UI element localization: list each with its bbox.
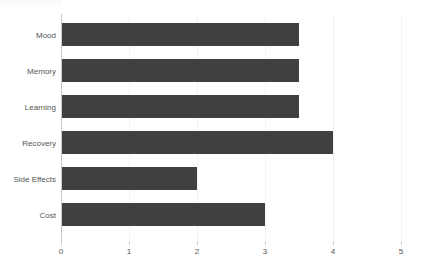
x-tick-mark-2 [197,241,198,245]
bar-chart: MoodMemoryLearningRecoverySide EffectsCo… [0,0,429,275]
x-tick-label-1: 1 [114,247,144,256]
bar-row[interactable] [61,95,401,118]
x-tick-label-0: 0 [46,247,76,256]
bar-row[interactable] [61,59,401,82]
bar-row[interactable] [61,203,401,226]
category-label-recovery: Recovery [0,138,56,147]
x-tick-label-4: 4 [318,247,348,256]
x-tick-label-3: 3 [250,247,280,256]
bar-learning[interactable] [61,95,299,118]
bars-group [61,14,401,240]
x-tick-mark-4 [333,241,334,245]
category-label-cost: Cost [0,210,56,219]
x-tick-label-5: 5 [386,247,416,256]
bar-cost[interactable] [61,203,265,226]
x-tick-mark-3 [265,241,266,245]
category-label-memory: Memory [0,66,56,75]
x-tick-label-2: 2 [182,247,212,256]
bar-row[interactable] [61,23,401,46]
bar-side-effects[interactable] [61,167,197,190]
bar-row[interactable] [61,167,401,190]
top-left-artifact [0,0,62,6]
y-axis-line [61,14,62,241]
category-label-side-effects: Side Effects [0,174,56,183]
gridline-5 [401,14,402,240]
x-tick-mark-0 [61,241,62,245]
bar-row[interactable] [61,131,401,154]
category-label-mood: Mood [0,30,56,39]
plot-area [61,14,401,240]
bar-recovery[interactable] [61,131,333,154]
bar-mood[interactable] [61,23,299,46]
x-tick-mark-5 [401,241,402,245]
x-tick-mark-1 [129,241,130,245]
bar-memory[interactable] [61,59,299,82]
category-label-learning: Learning [0,102,56,111]
